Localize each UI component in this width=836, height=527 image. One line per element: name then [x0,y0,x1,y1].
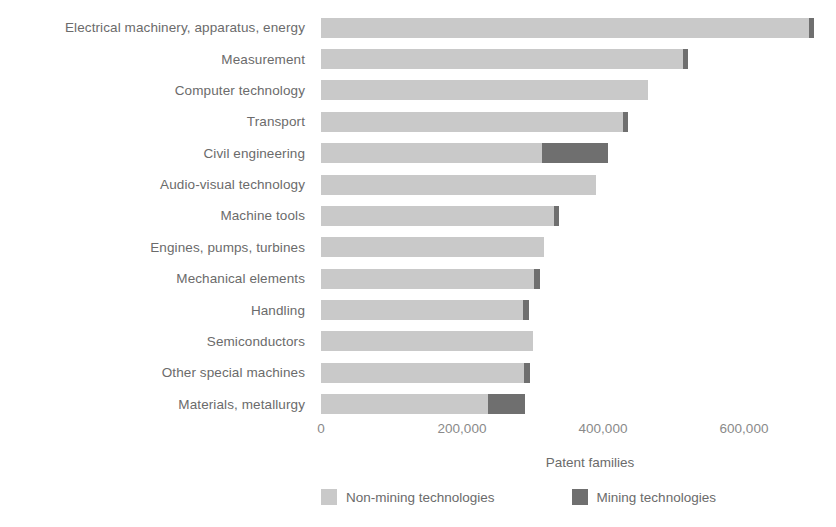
category-label: Semiconductors [0,326,313,357]
plot-area [321,12,821,420]
stacked-bar[interactable] [321,112,628,132]
category-label: Transport [0,106,313,137]
bar-segment-non-mining[interactable] [321,331,533,351]
bar-segment-non-mining[interactable] [321,363,524,383]
stacked-bar[interactable] [321,143,608,163]
x-axis-tick-label: 600,000 [720,421,769,436]
bar-segment-non-mining[interactable] [321,49,683,69]
category-label: Mechanical elements [0,263,313,294]
bar-row [321,12,821,43]
value-axis-ticks: 0200,000400,000600,000 [321,421,821,443]
stacked-bar[interactable] [321,331,533,351]
bar-segment-non-mining[interactable] [321,237,544,257]
bar-segment-non-mining[interactable] [321,80,648,100]
bar-segment-mining[interactable] [683,49,687,69]
bar-segment-mining[interactable] [623,112,628,132]
stacked-bar[interactable] [321,363,530,383]
stacked-bar[interactable] [321,394,525,414]
legend-item-non-mining[interactable]: Non-mining technologies [321,489,495,505]
bar-row [321,294,821,325]
bar-segment-non-mining[interactable] [321,394,488,414]
x-axis-title: Patent families [0,455,836,470]
bar-segment-mining[interactable] [534,269,540,289]
stacked-bar[interactable] [321,49,688,69]
stacked-bar[interactable] [321,300,529,320]
stacked-bar[interactable] [321,18,814,38]
x-axis-tick-label: 0 [317,421,325,436]
legend-label-non-mining: Non-mining technologies [346,490,495,505]
category-label: Engines, pumps, turbines [0,232,313,263]
bar-row [321,200,821,231]
bar-segment-mining[interactable] [809,18,815,38]
stacked-bar[interactable] [321,237,544,257]
category-label: Machine tools [0,200,313,231]
bar-segment-non-mining[interactable] [321,300,523,320]
bar-segment-non-mining[interactable] [321,112,623,132]
bar-row [321,169,821,200]
stacked-bar[interactable] [321,206,559,226]
category-label: Audio-visual technology [0,169,313,200]
bar-row [321,263,821,294]
bar-segment-mining[interactable] [554,206,560,226]
bar-segment-non-mining[interactable] [321,143,542,163]
patent-families-bar-chart: Electrical machinery, apparatus, energyM… [0,0,836,527]
stacked-bar[interactable] [321,269,540,289]
bar-segment-non-mining[interactable] [321,269,534,289]
x-axis-tick-label: 200,000 [438,421,487,436]
bar-row [321,326,821,357]
bar-row [321,138,821,169]
category-label: Materials, metallurgy [0,389,313,420]
category-label: Electrical machinery, apparatus, energy [0,12,313,43]
stacked-bar[interactable] [321,80,648,100]
category-label: Handling [0,294,313,325]
category-label: Civil engineering [0,138,313,169]
bar-rows [321,12,821,420]
category-axis-labels: Electrical machinery, apparatus, energyM… [0,12,313,420]
bar-segment-non-mining[interactable] [321,206,554,226]
bar-segment-non-mining[interactable] [321,18,809,38]
bar-row [321,357,821,388]
bar-segment-mining[interactable] [523,300,529,320]
bar-segment-mining[interactable] [488,394,525,414]
legend-swatch-non-mining-icon [321,489,337,505]
category-label: Computer technology [0,75,313,106]
bar-segment-mining[interactable] [524,363,530,383]
bar-segment-non-mining[interactable] [321,175,596,195]
bar-row [321,43,821,74]
stacked-bar[interactable] [321,175,596,195]
bar-segment-mining[interactable] [542,143,608,163]
bar-row [321,75,821,106]
legend-swatch-mining-icon [572,489,588,505]
bar-row [321,106,821,137]
chart-legend: Non-mining technologies Mining technolog… [321,487,751,507]
legend-item-mining[interactable]: Mining technologies [572,489,716,505]
category-label: Measurement [0,43,313,74]
x-axis-title-text: Patent families [546,455,635,470]
bar-row [321,232,821,263]
legend-label-mining: Mining technologies [597,490,716,505]
x-axis-tick-label: 400,000 [579,421,628,436]
bar-row [321,389,821,420]
category-label: Other special machines [0,357,313,388]
